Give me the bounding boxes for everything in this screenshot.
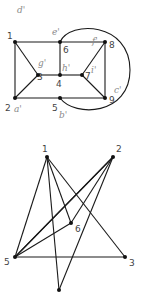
top-node-1	[13, 40, 17, 44]
top-handwritten-label: g'	[38, 58, 46, 68]
bottom-node-label: 1	[42, 144, 48, 154]
top-node-label: 7	[85, 71, 91, 81]
bottom-node-6	[69, 221, 73, 225]
bottom-node-label: 2	[116, 144, 122, 154]
bottom-node-1	[45, 155, 49, 159]
top-node-6	[58, 40, 62, 44]
top-handwritten-label: b'	[59, 110, 67, 120]
top-node-label: 8	[109, 40, 115, 50]
top-node-label: 3	[37, 72, 43, 82]
bottom-node-label: 6	[75, 224, 81, 234]
top-node-7	[80, 73, 84, 77]
bottom-edge-1-3	[47, 157, 125, 257]
top-node-label: 6	[63, 45, 69, 55]
bottom-edge-2-b	[59, 157, 113, 290]
top-edge-2-3	[15, 75, 38, 98]
bottom-edge-1-b	[47, 157, 59, 290]
bottom-node-b	[57, 288, 61, 292]
bottom-graph: 12653	[4, 144, 135, 292]
top-handwritten-label: f'	[91, 36, 98, 46]
top-node-9	[103, 96, 107, 100]
top-handwritten-label: i'	[91, 65, 96, 75]
bottom-edge-1-6	[47, 157, 71, 223]
top-node-2	[13, 96, 17, 100]
top-graph: 1d'6e'8f'3g'4h'7i'2a'5b'9c'	[5, 5, 130, 120]
top-node-label: 2	[5, 103, 11, 113]
bottom-node-label: 5	[4, 257, 10, 267]
top-handwritten-label: c'	[114, 85, 122, 95]
top-node-label: 9	[109, 95, 115, 105]
top-handwritten-label: d'	[17, 5, 25, 15]
bottom-edge-1-5	[15, 157, 47, 257]
bottom-node-3	[123, 255, 127, 259]
top-handwritten-label: a'	[14, 104, 22, 114]
top-node-4	[58, 73, 62, 77]
bottom-edge-2-6	[71, 157, 113, 223]
top-node-label: 5	[52, 103, 58, 113]
top-node-label: 4	[56, 79, 62, 89]
graph-canvas: 1d'6e'8f'3g'4h'7i'2a'5b'9c' 12653	[0, 0, 143, 293]
bottom-node-2	[111, 155, 115, 159]
top-edge-1-3	[15, 42, 38, 75]
bottom-extra-edge	[15, 157, 113, 257]
top-node-5	[58, 96, 62, 100]
bottom-node-5	[13, 255, 17, 259]
top-handwritten-label: h'	[62, 63, 70, 73]
top-node-8	[103, 40, 107, 44]
top-handwritten-label: e'	[52, 27, 60, 37]
top-node-label: 1	[7, 31, 13, 41]
bottom-node-label: 3	[129, 258, 135, 268]
